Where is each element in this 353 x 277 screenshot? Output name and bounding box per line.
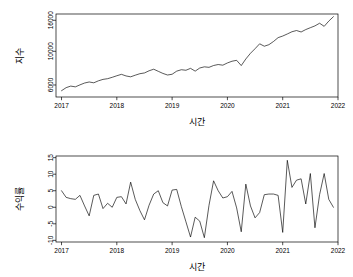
svg-text:2019: 2019 [165, 102, 180, 109]
svg-text:10: 10 [47, 170, 54, 178]
svg-text:-10: -10 [47, 235, 54, 245]
svg-text:5: 5 [47, 189, 54, 193]
svg-text:0: 0 [47, 205, 54, 209]
svg-text:2019: 2019 [165, 247, 180, 254]
figure-two-panel-timeseries: 20172018201920202021202260001000016000 지… [0, 0, 353, 277]
index-y-axis-title: 지수 [13, 36, 27, 76]
svg-text:2018: 2018 [110, 247, 125, 254]
svg-text:2021: 2021 [275, 247, 290, 254]
return-plot-svg: 201720182019202020212022-10-5051015 [0, 140, 353, 277]
data-series-line [62, 160, 334, 237]
svg-text:2020: 2020 [220, 102, 235, 109]
panel-index-chart: 20172018201920202021202260001000016000 지… [0, 0, 353, 140]
svg-text:2018: 2018 [110, 102, 125, 109]
data-series-line [62, 17, 334, 91]
svg-text:2017: 2017 [54, 247, 69, 254]
svg-text:15: 15 [47, 154, 54, 162]
svg-text:2022: 2022 [331, 247, 346, 254]
svg-text:2020: 2020 [220, 247, 235, 254]
index-x-axis-title: 시간 [56, 115, 338, 128]
svg-text:16000: 16000 [47, 11, 54, 29]
return-y-axis-title: 수익률 [13, 179, 27, 219]
svg-text:6000: 6000 [47, 77, 54, 92]
return-x-axis-title: 시간 [56, 260, 338, 273]
svg-text:2021: 2021 [275, 102, 290, 109]
panel-return-chart: 201720182019202020212022-10-5051015 수익률 … [0, 140, 353, 277]
svg-text:2017: 2017 [54, 102, 69, 109]
svg-text:-5: -5 [47, 221, 54, 227]
svg-text:2022: 2022 [331, 102, 346, 109]
svg-text:10000: 10000 [47, 42, 54, 60]
